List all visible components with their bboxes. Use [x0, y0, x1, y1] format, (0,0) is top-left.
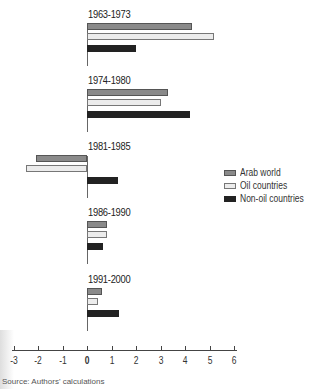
x-tick-label: -1	[57, 355, 69, 366]
legend-item-oil-countries: Oil countries	[224, 179, 310, 192]
x-tick	[210, 346, 211, 350]
panel-1974-1980: 1974-1980	[0, 74, 310, 134]
bar-nonoil	[87, 177, 118, 184]
x-tick-label: -2	[32, 355, 44, 366]
x-tick-label: 3	[155, 355, 167, 366]
x-axis-line	[12, 350, 237, 351]
panel-1991-2000: 1991-2000	[0, 273, 310, 333]
x-tick	[112, 346, 113, 350]
panel-title: 1986-1990	[88, 206, 130, 218]
bar-arab	[87, 288, 102, 295]
x-tick-label: -3	[8, 355, 20, 366]
bar-oil	[87, 231, 107, 238]
bar-oil	[87, 33, 214, 40]
panel-title: 1991-2000	[88, 273, 130, 285]
x-tick-label: 1	[106, 355, 118, 366]
x-tick	[185, 346, 186, 350]
x-tick-label: 0	[81, 355, 93, 366]
non-oil-countries-swatch-icon	[224, 196, 236, 202]
x-tick	[136, 346, 137, 350]
bar-oil	[87, 99, 161, 106]
bar-nonoil	[87, 45, 136, 52]
legend-label: Oil countries	[240, 180, 287, 191]
bar-arab	[36, 155, 87, 162]
x-tick	[87, 346, 88, 350]
panel-title: 1974-1980	[88, 74, 130, 86]
legend-item-non-oil-countries: Non-oil countries	[224, 192, 310, 205]
bar-oil	[26, 165, 87, 172]
x-tick-label: 6	[228, 355, 240, 366]
x-tick	[38, 346, 39, 350]
x-tick	[234, 346, 235, 350]
oil-countries-swatch-icon	[224, 183, 236, 189]
legend: Arab world Oil countries Non-oil countri…	[224, 166, 310, 205]
bar-nonoil	[87, 310, 119, 317]
panel-1963-1973: 1963-1973	[0, 8, 310, 68]
arab-world-swatch-icon	[224, 170, 236, 176]
bar-arab	[87, 221, 107, 228]
panel-title: 1963-1973	[88, 8, 130, 20]
bar-oil	[87, 298, 98, 305]
panel-title: 1981-1985	[88, 140, 130, 152]
source-note: Source: Authors' calculations	[2, 377, 104, 386]
x-tick	[63, 346, 64, 350]
x-tick-label: 5	[204, 355, 216, 366]
legend-label: Non-oil countries	[240, 193, 304, 204]
legend-item-arab-world: Arab world	[224, 166, 310, 179]
x-tick	[14, 346, 15, 350]
panel-1986-1990: 1986-1990	[0, 206, 310, 266]
bar-nonoil	[87, 243, 103, 250]
bar-nonoil	[87, 111, 190, 118]
x-tick-label: 2	[130, 355, 142, 366]
bar-arab	[87, 23, 192, 30]
x-tick	[161, 346, 162, 350]
legend-label: Arab world	[240, 167, 281, 178]
x-tick-label: 4	[179, 355, 191, 366]
bar-arab	[87, 89, 168, 96]
